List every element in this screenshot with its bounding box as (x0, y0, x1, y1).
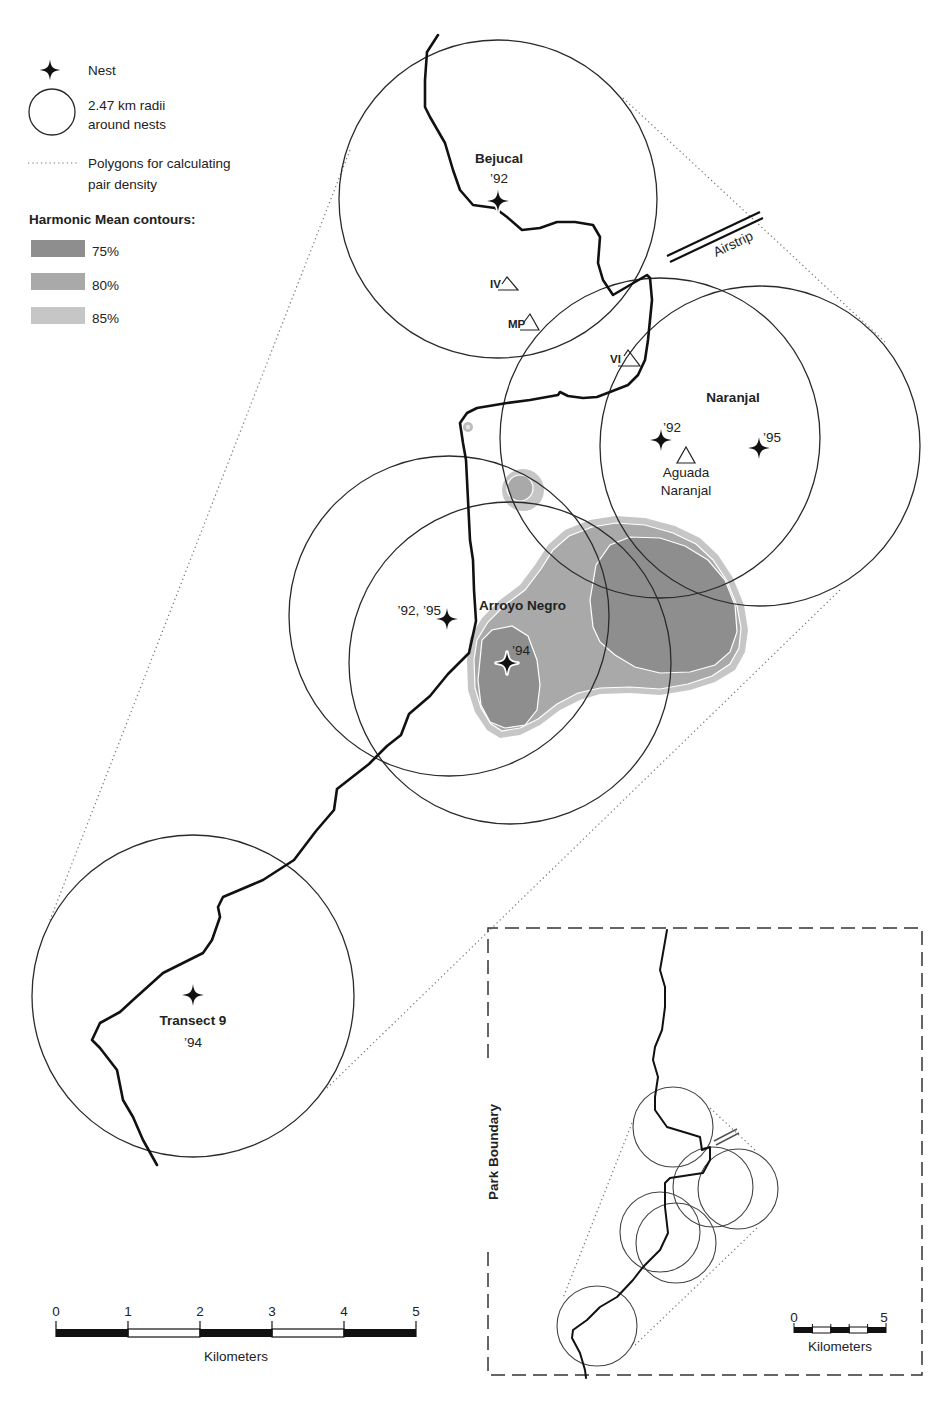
polygon-edge-top-right (623, 98, 885, 342)
radius-circle-icon (29, 89, 75, 135)
park-boundary-label: Park Boundary (486, 1103, 501, 1200)
site-naranjal: Naranjal ’92 ’95 (650, 390, 781, 459)
scale-tick-5: 5 (412, 1304, 420, 1319)
triangle-marker-icon (498, 277, 518, 290)
scale-tick-3: 3 (268, 1304, 276, 1319)
scale-segment-2 (128, 1329, 200, 1337)
inset-river (572, 930, 710, 1378)
waterhole-label-2: Naranjal (661, 483, 711, 498)
scale-bar: 0 1 2 3 4 5 Kilometers (52, 1304, 420, 1364)
site-transect-9: Transect 9 ’94 (160, 984, 227, 1050)
legend-polygon-label-2: pair density (88, 177, 157, 192)
scale-tick-1: 1 (124, 1304, 132, 1319)
site-name: Naranjal (706, 390, 759, 405)
scale-unit: Kilometers (204, 1349, 268, 1364)
nest-icon (487, 190, 509, 212)
swatch-85 (31, 307, 85, 324)
legend: Nest 2.47 km radii around nests Polygons… (28, 60, 231, 326)
scale-segment-1 (56, 1329, 128, 1337)
legend-radius-label-1: 2.47 km radii (88, 98, 165, 113)
inset-scale-unit: Kilometers (808, 1339, 872, 1354)
site-years: ’92 (490, 171, 508, 186)
swatch-75 (31, 240, 85, 257)
nest-radius-circles (32, 40, 920, 1157)
airstrip: Airstrip (667, 212, 763, 262)
scale-tick-0: 0 (52, 1304, 60, 1319)
marker-mp-label: MP (508, 318, 526, 330)
nest-icon (40, 60, 61, 81)
triangle-marker-icon (618, 350, 640, 366)
site-name: Transect 9 (160, 1013, 227, 1028)
legend-radius-label-2: around nests (88, 117, 166, 132)
nest-year-95: ’95 (763, 430, 781, 445)
marker-iv-label: IV (490, 278, 501, 290)
contour-tiny-patch-center (466, 425, 470, 429)
pair-density-polygon (50, 98, 885, 1089)
waterhole-label-1: Aguada (663, 465, 710, 480)
nest-year-92: ’92 (663, 420, 681, 435)
scale-segment-4 (272, 1329, 344, 1337)
inset-scale-tick-0: 0 (790, 1310, 798, 1325)
inset-scale-bar: 0 5 Kilometers (790, 1310, 888, 1354)
waterhole-aguada-naranjal: Aguada Naranjal (661, 447, 711, 498)
marker-vi-label: VI (610, 353, 621, 365)
site-years: ’94 (184, 1035, 203, 1050)
marker-iv: IV (490, 277, 518, 290)
site-bejucal: Bejucal ’92 (475, 151, 523, 212)
legend-contour-75-label: 75% (92, 244, 119, 259)
legend-nest-label: Nest (88, 63, 116, 78)
inset-scale-tick-5: 5 (880, 1310, 888, 1325)
scale-segment-5 (344, 1329, 416, 1337)
swatch-80 (31, 273, 85, 290)
nest-year-92-95: ’92, ’95 (397, 603, 441, 618)
study-area-map: Nest 2.47 km radii around nests Polygons… (0, 0, 949, 1404)
legend-contours-title: Harmonic Mean contours: (29, 212, 196, 227)
legend-contour-80-label: 80% (92, 278, 119, 293)
site-name: Arroyo Negro (479, 598, 566, 613)
polygon-edge-left (50, 150, 350, 920)
marker-mp: MP (508, 314, 539, 330)
waterhole-triangle-icon (677, 447, 695, 463)
scale-segment-3 (200, 1329, 272, 1337)
inset-map: Park Boundary 0 5 (486, 928, 922, 1378)
nest-icon (182, 984, 204, 1006)
scale-tick-2: 2 (196, 1304, 204, 1319)
site-name: Bejucal (475, 151, 523, 166)
marker-vi: VI (610, 350, 640, 366)
nest-year-94: ’94 (512, 643, 531, 658)
legend-contour-85-label: 85% (92, 311, 119, 326)
scale-tick-4: 4 (340, 1304, 348, 1319)
legend-polygon-label-1: Polygons for calculating (88, 156, 231, 171)
